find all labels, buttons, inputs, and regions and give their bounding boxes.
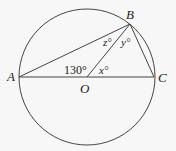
radius-ob <box>87 24 130 77</box>
angle-z-label: z° <box>102 36 112 48</box>
point-a-label: A <box>6 69 15 84</box>
angle-x-label: x° <box>98 64 109 76</box>
point-b-label: B <box>126 7 134 22</box>
center-o-label: O <box>80 81 90 96</box>
chord-bc <box>130 24 154 77</box>
circle-diagram: A B C O 130° x° y° z° <box>0 0 176 151</box>
point-c-label: C <box>158 70 167 85</box>
angle-y-label: y° <box>120 36 131 48</box>
angle-aob-label: 130° <box>64 63 87 77</box>
